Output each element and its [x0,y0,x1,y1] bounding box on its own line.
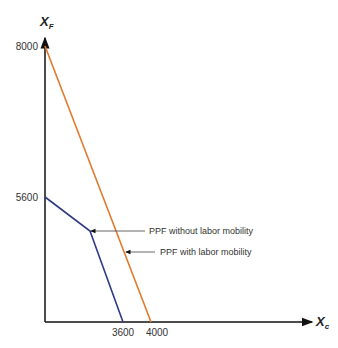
ppf-chart: PPF without labor mobility PPF with labo… [0,0,338,348]
x-tick-4000: 4000 [146,327,169,338]
ppf-with-mobility-line [45,46,151,322]
ppf-without-mobility-line [45,197,123,322]
y-tick-5600: 5600 [16,192,39,203]
y-axis-label: XF [39,14,55,31]
label-ppf-with: PPF with labor mobility [160,247,252,257]
x-axis-label: Xc [315,314,330,331]
label-ppf-without: PPF without labor mobility [149,226,254,236]
y-tick-8000: 8000 [16,41,39,52]
x-tick-3600: 3600 [112,327,135,338]
